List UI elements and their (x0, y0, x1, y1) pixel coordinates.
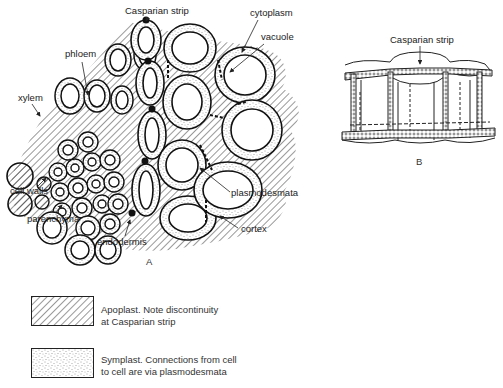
legend-symplast-text: Symplast. Connections from cell to cell … (101, 354, 237, 378)
cell-tops (345, 52, 490, 70)
label-phloem: phloem (65, 48, 96, 59)
caption-a: A (146, 256, 153, 267)
label-xylem: xylem (18, 92, 43, 103)
label-cortex: cortex (241, 223, 267, 234)
label-casparian-strip: Casparian strip (125, 5, 189, 16)
label-casparian-strip-b: Casparian strip (390, 34, 454, 45)
panel-a: Casparian strip phloem cytoplasm vacuole… (7, 5, 299, 267)
label-cell-walls: cell walls (10, 185, 48, 196)
legend-apoplast-line1: Apoplast. Note discontinuity (101, 304, 218, 316)
label-endodermis: endodermis (97, 236, 147, 247)
casparian-band-bottom (342, 128, 495, 140)
legend-apoplast-text: Apoplast. Note discontinuity at Casparia… (101, 304, 218, 328)
legend-apoplast-line2: at Casparian strip (101, 316, 218, 328)
legend-symplast-swatch (31, 348, 94, 378)
root-tissue-diagram: Casparian strip phloem cytoplasm vacuole… (0, 0, 503, 388)
legend-symplast-line2: to cell are via plasmodesmata (101, 366, 237, 378)
label-cytoplasm: cytoplasm (250, 7, 293, 18)
label-parenchyma: parenchyma (27, 213, 80, 224)
caption-b: B (416, 156, 422, 167)
panel-b: Casparian strip B (342, 34, 495, 167)
label-vacuole: vacuole (261, 31, 294, 42)
label-plasmodesmata: plasmodesmata (231, 187, 299, 198)
casparian-band-top (345, 68, 492, 80)
legend-apoplast-swatch (31, 296, 94, 326)
legend-symplast-line1: Symplast. Connections from cell (101, 354, 237, 366)
